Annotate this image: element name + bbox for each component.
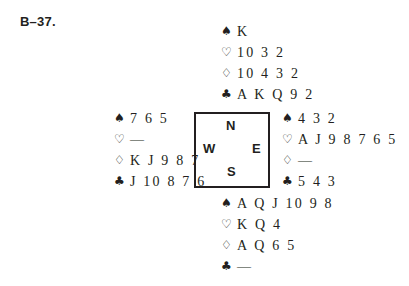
south-hearts: K Q 4 [237,214,282,235]
south-spades-row: ♠A Q J 10 9 8 [221,193,334,214]
diamond-icon: ♢ [114,150,130,171]
club-icon: ♣ [282,171,298,192]
north-hearts: 10 3 2 [237,42,285,63]
north-hearts-row: ♡10 3 2 [221,42,314,63]
diamond-icon: ♢ [221,235,237,256]
north-clubs-row: ♣A K Q 9 2 [221,84,314,105]
club-icon: ♣ [114,171,130,192]
south-clubs: — [237,256,253,277]
west-spades: 7 6 5 [130,108,169,129]
heart-icon: ♡ [282,129,298,150]
compass-north-label: N [226,118,235,133]
spade-icon: ♠ [114,108,130,129]
east-spades: 4 3 2 [298,108,337,129]
spade-icon: ♠ [221,193,237,214]
west-diamonds: K J 9 8 7 [130,150,200,171]
east-diamonds-row: ♢— [282,150,397,171]
west-spades-row: ♠7 6 5 [114,108,206,129]
east-clubs-row: ♣5 4 3 [282,171,397,192]
heart-icon: ♡ [221,42,237,63]
compass-east-label: E [252,141,261,156]
west-hearts-row: ♡— [114,129,206,150]
north-diamonds-row: ♢10 4 3 2 [221,63,314,84]
west-hand: ♠7 6 5 ♡— ♢K J 9 8 7 ♣J 10 8 7 6 [114,108,206,192]
west-clubs-row: ♣J 10 8 7 6 [114,171,206,192]
south-diamonds-row: ♢A Q 6 5 [221,235,334,256]
south-spades: A Q J 10 9 8 [237,193,334,214]
heart-icon: ♡ [114,129,130,150]
north-clubs: A K Q 9 2 [237,84,314,105]
south-hand: ♠A Q J 10 9 8 ♡K Q 4 ♢A Q 6 5 ♣— [221,193,334,277]
heart-icon: ♡ [221,214,237,235]
east-hearts: A J 9 8 7 6 5 [298,129,397,150]
compass-south-label: S [227,164,236,179]
spade-icon: ♠ [282,108,298,129]
compass-west-label: W [203,141,215,156]
south-hearts-row: ♡K Q 4 [221,214,334,235]
south-diamonds: A Q 6 5 [237,235,296,256]
north-spades: K [237,21,249,42]
south-clubs-row: ♣— [221,256,334,277]
east-clubs: 5 4 3 [298,171,337,192]
problem-label: B–37. [20,14,56,29]
north-diamonds: 10 4 3 2 [237,63,300,84]
diamond-icon: ♢ [282,150,298,171]
spade-icon: ♠ [221,21,237,42]
diamond-icon: ♢ [221,63,237,84]
compass-box: N W E S [194,112,270,188]
west-hearts: — [130,129,146,150]
east-hand: ♠4 3 2 ♡A J 9 8 7 6 5 ♢— ♣5 4 3 [282,108,397,192]
north-hand: ♠K ♡10 3 2 ♢10 4 3 2 ♣A K Q 9 2 [221,21,314,105]
east-diamonds: — [298,150,314,171]
club-icon: ♣ [221,256,237,277]
club-icon: ♣ [221,84,237,105]
east-hearts-row: ♡A J 9 8 7 6 5 [282,129,397,150]
east-spades-row: ♠4 3 2 [282,108,397,129]
north-spades-row: ♠K [221,21,314,42]
west-diamonds-row: ♢K J 9 8 7 [114,150,206,171]
